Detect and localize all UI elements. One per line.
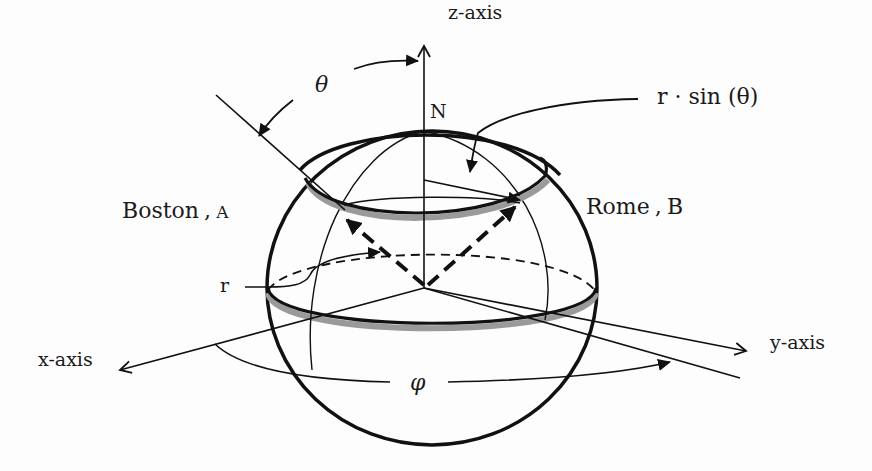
- theta-label: θ: [315, 74, 328, 96]
- theta-arc-left: [259, 100, 293, 136]
- x-axis-label: x-axis: [38, 350, 93, 369]
- north-pole-label: N: [430, 102, 447, 121]
- boston-letter: A: [216, 202, 228, 222]
- boston-separator: ,: [204, 198, 211, 223]
- r-leader: [245, 252, 380, 287]
- phi-label: φ: [410, 372, 425, 394]
- rome-separator: ,: [655, 194, 662, 219]
- rsin-theta-label: r · sin (θ): [657, 86, 758, 108]
- rome-label: Rome , B: [586, 196, 683, 218]
- rome-letter: B: [667, 194, 683, 219]
- y-axis-label: y-axis: [770, 333, 825, 352]
- phi-arc-left: [215, 344, 390, 382]
- vector-to-boston: [347, 220, 424, 285]
- theta-arc-right: [354, 61, 418, 69]
- boston-name: Boston: [122, 198, 199, 223]
- diagram-canvas: z-axis θ N r · sin (θ) Boston , A Rome ,…: [0, 0, 872, 471]
- z-axis-label: z-axis: [448, 3, 502, 22]
- sphere-diagram: [0, 0, 872, 471]
- phi-arc-right: [448, 362, 670, 382]
- rome-name: Rome: [586, 194, 650, 219]
- boston-label: Boston , A: [122, 200, 228, 222]
- y-axis-line: [424, 288, 746, 351]
- radius-label: r: [220, 276, 229, 295]
- rsin-leader: [470, 99, 638, 172]
